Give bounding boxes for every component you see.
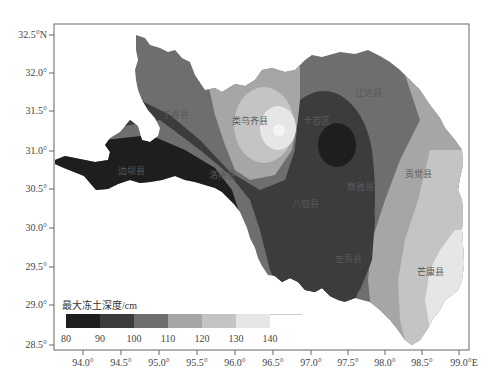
legend-title: 最大冻土深度/cm — [62, 297, 137, 312]
y-tick-label: 28.5° — [26, 339, 48, 350]
legend-swatch-110-120 — [168, 314, 202, 328]
x-tick-label: 96.0° — [224, 357, 246, 368]
x-tick-label: 98.0° — [374, 357, 396, 368]
legend-swatch-100-110 — [134, 314, 168, 328]
legend-swatch-130-140 — [236, 314, 270, 328]
legend-swatch-120-130 — [202, 314, 236, 328]
legend-tick: 140 — [258, 333, 282, 344]
x-tick-label: 98.5° — [411, 357, 433, 368]
legend-tick-labels: 80 90 100 110 120 130 140 — [56, 333, 316, 347]
county-label-mangkang: 芒康县 — [417, 266, 444, 277]
x-tick-label: 95.0° — [148, 357, 170, 368]
county-label-karuo: 卡若区 — [303, 115, 330, 126]
county-label-luolong: 洛隆县 — [209, 169, 236, 180]
legend-tick: 80 — [54, 333, 78, 344]
y-axis: 32.5°N 32.0° 31.5° 31.0° 30.5° 30.0° 29.… — [18, 29, 54, 350]
county-label-chaya: 察雅县 — [347, 181, 374, 192]
y-tick-label: 30.0° — [26, 222, 48, 233]
county-label-gongjue: 贡觉县 — [405, 169, 432, 179]
x-tick-label: 97.5° — [337, 357, 359, 368]
legend-tick: 100 — [122, 333, 146, 344]
legend-swatch-90-100 — [100, 314, 134, 328]
y-tick-label: 30.5° — [26, 183, 48, 194]
y-tick-label: 32.5°N — [18, 29, 47, 40]
x-tick-label: 95.5° — [186, 357, 208, 368]
legend-tick: 110 — [156, 333, 180, 344]
y-tick-label: 31.0° — [26, 145, 48, 156]
x-tick-label: 94.0° — [72, 357, 94, 368]
legend-tick: 120 — [190, 333, 214, 344]
frozen-soil-depth-map: 32.5°N 32.0° 31.5° 31.0° 30.5° 30.0° 29.… — [0, 0, 491, 388]
x-tick-label: 99.0°E — [450, 357, 478, 368]
band-140-peak — [273, 124, 285, 136]
county-label-jiangda: 江达县 — [355, 87, 382, 98]
y-tick-label: 32.0° — [26, 67, 48, 78]
county-label-dingqing: 丁青县 — [162, 109, 189, 120]
x-axis: 94.0° 94.5° 95.0° 95.5° 96.0° 96.5° 97.0… — [72, 350, 478, 368]
legend-color-bar — [66, 314, 270, 328]
county-label-basu: 八宿县 — [292, 198, 319, 209]
legend-tick: 130 — [224, 333, 248, 344]
x-tick-label: 96.5° — [262, 357, 284, 368]
county-label-zuogong: 左贡县 — [335, 253, 362, 264]
y-tick-label: 31.5° — [26, 105, 48, 116]
x-tick-label: 97.0° — [300, 357, 322, 368]
legend-swatch-80-90 — [66, 314, 100, 328]
x-tick-label: 94.5° — [110, 357, 132, 368]
band-80-90-center — [318, 123, 356, 167]
y-tick-label: 29.5° — [26, 261, 48, 272]
legend-tick: 90 — [88, 333, 112, 344]
y-tick-label: 29.0° — [26, 299, 48, 310]
county-label-bianba: 边坝县 — [118, 166, 145, 176]
county-label-leiwuqi: 类乌齐县 — [232, 115, 268, 126]
